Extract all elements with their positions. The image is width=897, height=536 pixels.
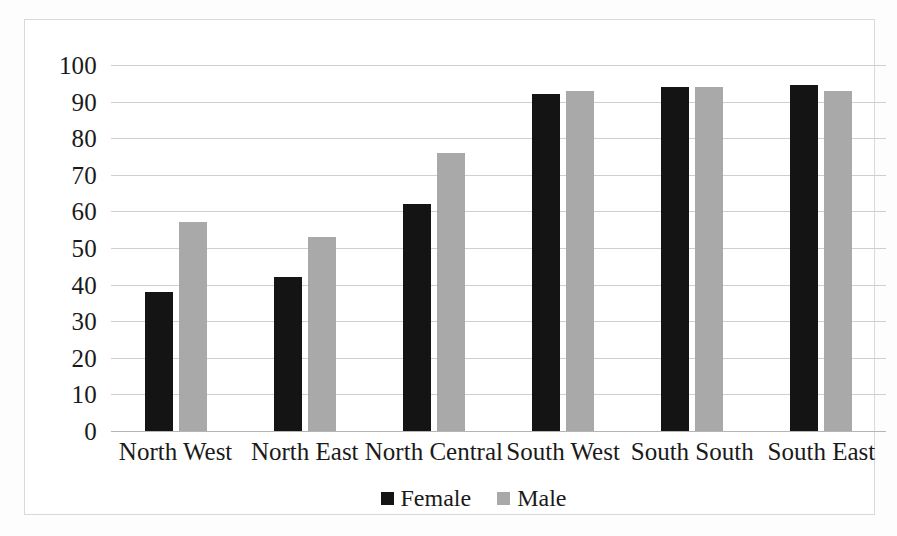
legend-swatch-icon-female	[381, 492, 394, 505]
axis-baseline	[111, 431, 886, 432]
y-axis-tick-label: 90	[72, 89, 97, 114]
bar-female-north-east	[274, 277, 302, 431]
x-axis-label-south-south: South South	[631, 438, 754, 467]
y-axis-tick-label: 10	[72, 382, 97, 407]
gridline	[111, 102, 886, 103]
bar-male-north-central	[437, 153, 465, 431]
x-axis-labels: North WestNorth EastNorth CentralSouth W…	[111, 438, 886, 474]
legend-item-female[interactable]: Female	[381, 486, 472, 510]
x-axis-label-north-east: North East	[251, 438, 359, 467]
y-axis-tick-label: 40	[72, 272, 97, 297]
bar-female-south-south	[661, 87, 689, 431]
gridline	[111, 321, 886, 322]
y-axis-tick-label: 70	[72, 162, 97, 187]
gridline	[111, 65, 886, 66]
legend-item-male[interactable]: Male	[497, 486, 566, 510]
chart-frame: 1009080706050403020100 North WestNorth E…	[24, 19, 875, 515]
x-axis-label-north-west: North West	[119, 438, 233, 467]
y-axis-tick-label: 60	[72, 199, 97, 224]
y-axis-tick-label: 0	[84, 419, 97, 444]
y-axis-tick-label: 30	[72, 309, 97, 334]
gridline	[111, 138, 886, 139]
x-axis-label-south-east: South East	[768, 438, 876, 467]
bar-female-north-central	[403, 204, 431, 431]
x-axis-label-north-central: North Central	[365, 438, 503, 467]
bar-male-south-east	[824, 91, 852, 431]
legend-label-female: Female	[401, 486, 472, 510]
legend-label-male: Male	[517, 486, 566, 510]
bar-male-north-east	[308, 237, 336, 431]
y-axis-tick-label: 100	[59, 53, 97, 78]
y-axis-tick-label: 80	[72, 126, 97, 151]
gridline	[111, 285, 886, 286]
bar-female-north-west	[145, 292, 173, 431]
bar-female-south-west	[532, 94, 560, 431]
bar-female-south-east	[790, 85, 818, 431]
legend-swatch-icon-male	[497, 492, 510, 505]
gridline	[111, 358, 886, 359]
x-axis-label-south-west: South West	[506, 438, 620, 467]
chart-legend: FemaleMale	[25, 486, 897, 510]
bar-male-north-west	[179, 222, 207, 431]
bar-male-south-south	[695, 87, 723, 431]
gridline	[111, 394, 886, 395]
plot-area: 1009080706050403020100	[111, 65, 886, 431]
chart-root: 1009080706050403020100 North WestNorth E…	[0, 0, 897, 536]
gridline	[111, 248, 886, 249]
y-axis-tick-label: 50	[72, 236, 97, 261]
bar-male-south-west	[566, 91, 594, 431]
gridline	[111, 211, 886, 212]
y-axis-tick-label: 20	[72, 345, 97, 370]
gridline	[111, 175, 886, 176]
